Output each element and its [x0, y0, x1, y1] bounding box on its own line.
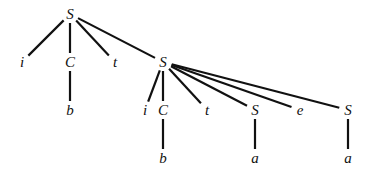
tree-node-b: b [159, 150, 167, 166]
tree-edge [171, 66, 247, 106]
parse-tree: SiCtSbiCtSeSbaa [0, 0, 373, 173]
tree-node-b: b [66, 102, 74, 118]
tree-node-S: S [66, 6, 74, 22]
tree-edge [78, 18, 155, 58]
tree-node-i: i [20, 54, 24, 70]
tree-node-a: a [251, 150, 259, 166]
tree-node-t: t [113, 54, 118, 70]
tree-node-S: S [251, 102, 259, 118]
tree-node-i: i [143, 102, 147, 118]
tree-node-C: C [158, 102, 169, 118]
tree-node-t: t [205, 102, 210, 118]
tree-node-e: e [297, 102, 304, 118]
tree-node-S: S [344, 102, 352, 118]
tree-edges [28, 18, 348, 149]
tree-node-a: a [344, 150, 352, 166]
tree-edge [171, 65, 291, 107]
tree-edge [28, 20, 63, 55]
tree-edge [148, 70, 160, 101]
tree-node-C: C [65, 54, 76, 70]
tree-node-S: S [159, 54, 167, 70]
